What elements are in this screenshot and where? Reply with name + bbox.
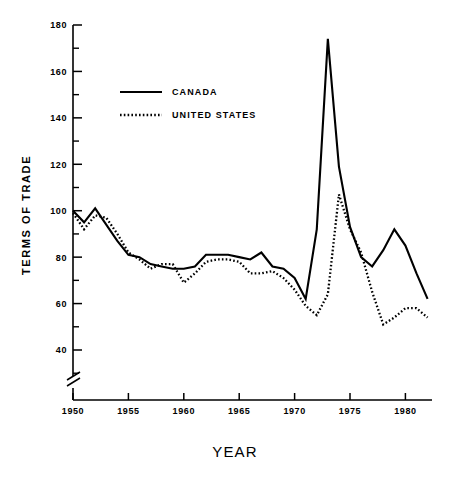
terms-of-trade-line-chart: 406080100120140160180 195019551960196519… xyxy=(0,0,469,478)
x-tick-label: 1980 xyxy=(394,406,416,416)
y-tick-label: 100 xyxy=(50,206,67,216)
data-series-group xyxy=(73,39,428,325)
y-tick-label: 80 xyxy=(56,253,67,263)
x-axis-tick-labels: 1950195519601965197019751980 xyxy=(62,406,417,416)
y-tick-label: 160 xyxy=(50,67,67,77)
series-line-canada xyxy=(73,39,428,299)
y-tick-label: 60 xyxy=(56,299,67,309)
x-tick-label: 1955 xyxy=(117,406,139,416)
x-tick-label: 1950 xyxy=(62,406,84,416)
legend-entry-united-states: UNITED STATES xyxy=(120,110,256,120)
y-axis-title: TERMS OF TRADE xyxy=(20,155,32,275)
legend-entry-canada: CANADA xyxy=(120,87,218,97)
x-tick-label: 1970 xyxy=(283,406,305,416)
x-axis-title: YEAR xyxy=(212,443,258,460)
y-tick-label: 180 xyxy=(50,20,67,30)
y-tick-label: 40 xyxy=(56,345,67,355)
axes xyxy=(67,25,432,400)
y-tick-label: 120 xyxy=(50,160,67,170)
y-axis-tick-labels: 406080100120140160180 xyxy=(50,20,67,355)
legend-label-united-states: UNITED STATES xyxy=(172,110,256,120)
chart-container: 406080100120140160180 195019551960196519… xyxy=(0,0,469,478)
legend-label-canada: CANADA xyxy=(172,87,218,97)
x-tick-label: 1975 xyxy=(339,406,361,416)
x-tick-label: 1965 xyxy=(228,406,250,416)
x-axis-ticks xyxy=(73,393,405,400)
y-tick-label: 140 xyxy=(50,113,67,123)
x-tick-label: 1960 xyxy=(173,406,195,416)
legend: CANADA UNITED STATES xyxy=(120,87,256,120)
